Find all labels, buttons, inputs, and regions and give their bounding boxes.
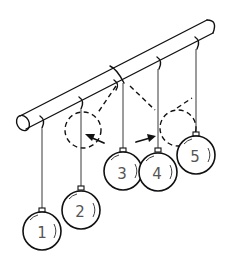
ball-1-label: 1 <box>37 224 47 242</box>
ball-1: 1 <box>23 208 61 250</box>
rod <box>14 20 215 133</box>
ball-4: 4 <box>139 148 177 191</box>
ball-3-label: 3 <box>117 165 127 183</box>
arrow-left-icon <box>85 134 104 143</box>
ball-2: 2 <box>62 186 100 229</box>
arrow-right-icon <box>136 134 156 142</box>
ball-5-label: 5 <box>190 148 200 166</box>
ball-4-label: 4 <box>152 165 162 183</box>
ball-3: 3 <box>104 148 142 190</box>
ball-5: 5 <box>177 132 215 174</box>
diagram-canvas: 1 2 3 4 5 <box>0 0 231 273</box>
motion-indicators <box>65 86 196 148</box>
ball-2-label: 2 <box>75 203 85 221</box>
newtons-cradle-diagram: 1 2 3 4 5 <box>0 0 231 273</box>
hooks <box>40 37 199 128</box>
